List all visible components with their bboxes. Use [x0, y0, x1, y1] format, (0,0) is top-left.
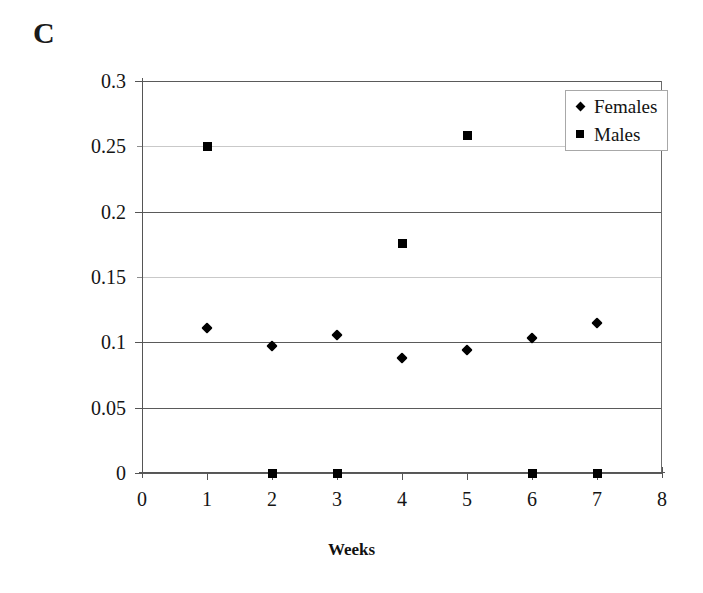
- legend-entry-females: Females: [566, 93, 669, 121]
- legend-label-males: Males: [594, 124, 640, 147]
- y-axis-line: [142, 78, 143, 476]
- x-tick-1: [207, 472, 208, 480]
- x-tick-4: [402, 472, 403, 480]
- x-tick-label-8: 8: [642, 489, 682, 509]
- y-tick-label-0.05: 0.05: [56, 398, 126, 418]
- y-tick-0.1: [135, 342, 142, 343]
- y-tick-label-0.2: 0.2: [56, 202, 126, 222]
- gridline-y-0.1: [142, 342, 662, 343]
- x-axis-line: [139, 472, 665, 473]
- y-tick-label-0.1: 0.1: [56, 332, 126, 352]
- x-tick-label-3: 3: [317, 489, 357, 509]
- data-point-females-week-4: [396, 352, 407, 363]
- data-point-males-week-4: [398, 239, 407, 248]
- data-point-males-week-3: [333, 469, 342, 478]
- legend-label-females: Females: [594, 96, 657, 119]
- gridline-y-0.3: [142, 81, 662, 82]
- data-point-females-week-7: [591, 317, 602, 328]
- panel-label: C: [33, 18, 55, 48]
- legend-square-marker-icon: [576, 130, 584, 138]
- x-tick-label-5: 5: [447, 489, 487, 509]
- data-point-males-week-1: [203, 142, 212, 151]
- gridline-y-0.2: [142, 212, 662, 213]
- x-axis-title: Weeks: [0, 540, 703, 560]
- x-tick-label-4: 4: [382, 489, 422, 509]
- gridline-y-0.15: [142, 277, 662, 278]
- data-point-females-week-3: [331, 329, 342, 340]
- y-tick-label-0: 0: [56, 463, 126, 483]
- x-tick-5: [467, 472, 468, 480]
- data-point-males-week-5: [463, 131, 472, 140]
- data-point-females-week-5: [461, 345, 472, 356]
- data-point-males-week-2: [268, 469, 277, 478]
- data-point-males-week-6: [528, 469, 537, 478]
- x-tick-label-0: 0: [122, 489, 162, 509]
- figure-panel-c: C Risk of Dying Weeks 00.050.10.150.20.2…: [0, 0, 703, 593]
- x-tick-label-1: 1: [187, 489, 227, 509]
- y-tick-label-0.25: 0.25: [56, 136, 126, 156]
- x-tick-label-2: 2: [252, 489, 292, 509]
- data-point-females-week-1: [201, 322, 212, 333]
- legend-entry-males: Males: [566, 121, 669, 149]
- x-tick-label-7: 7: [577, 489, 617, 509]
- y-tick-label-0.3: 0.3: [56, 71, 126, 91]
- y-tick-0.05: [135, 408, 142, 409]
- chart-legend: Females Males: [565, 90, 668, 151]
- y-tick-0.2: [135, 212, 142, 213]
- x-tick-label-6: 6: [512, 489, 552, 509]
- gridline-y-0.05: [142, 408, 662, 409]
- y-tick-label-0.15: 0.15: [56, 267, 126, 287]
- y-tick-0: [135, 473, 142, 474]
- data-point-males-week-7: [593, 469, 602, 478]
- legend-diamond-marker-icon: [575, 101, 585, 111]
- y-tick-0.3: [135, 81, 142, 82]
